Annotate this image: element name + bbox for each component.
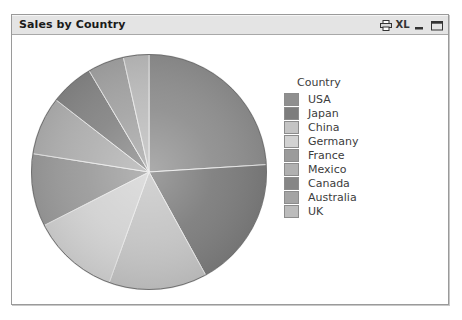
- pie-chart: [31, 54, 267, 290]
- legend-label: Canada: [308, 177, 350, 190]
- legend-item[interactable]: Germany: [284, 134, 414, 148]
- page-title: Sales by Country: [19, 18, 126, 31]
- legend-item[interactable]: USA: [284, 92, 414, 106]
- legend-label: Japan: [308, 107, 339, 120]
- chart-window: Sales by Country XL: [11, 14, 449, 305]
- legend-item[interactable]: China: [284, 120, 414, 134]
- legend-swatch: [284, 107, 299, 120]
- pie-chart-svg: [31, 54, 267, 290]
- legend: Country USAJapanChinaGermanyFranceMexico…: [284, 76, 414, 218]
- legend-swatch: [284, 93, 299, 106]
- legend-label: Germany: [308, 135, 359, 148]
- legend-title: Country: [297, 76, 414, 89]
- legend-item[interactable]: Mexico: [284, 162, 414, 176]
- legend-label: France: [308, 149, 345, 162]
- legend-swatch: [284, 205, 299, 218]
- legend-label: Australia: [308, 191, 357, 204]
- window-title-bar[interactable]: Sales by Country XL: [12, 15, 448, 35]
- chart-client-area: Country USAJapanChinaGermanyFranceMexico…: [12, 35, 448, 304]
- legend-swatch: [284, 121, 299, 134]
- legend-item[interactable]: Canada: [284, 176, 414, 190]
- legend-item[interactable]: UK: [284, 204, 414, 218]
- legend-rows: USAJapanChinaGermanyFranceMexicoCanadaAu…: [284, 92, 414, 218]
- excel-export-icon[interactable]: XL: [396, 18, 409, 32]
- legend-swatch: [284, 135, 299, 148]
- legend-item[interactable]: Australia: [284, 190, 414, 204]
- window-controls: XL: [379, 17, 443, 33]
- legend-label: USA: [308, 93, 331, 106]
- minimize-button[interactable]: [413, 18, 426, 32]
- legend-item[interactable]: France: [284, 148, 414, 162]
- legend-label: China: [308, 121, 339, 134]
- legend-swatch: [284, 177, 299, 190]
- legend-label: Mexico: [308, 163, 346, 176]
- legend-swatch: [284, 163, 299, 176]
- legend-label: UK: [308, 205, 323, 218]
- legend-swatch: [284, 149, 299, 162]
- legend-item[interactable]: Japan: [284, 106, 414, 120]
- pie-sheen-overlay: [31, 54, 267, 290]
- legend-swatch: [284, 191, 299, 204]
- excel-export-label: XL: [395, 20, 409, 30]
- maximize-button[interactable]: [430, 18, 443, 32]
- print-icon[interactable]: [379, 18, 392, 32]
